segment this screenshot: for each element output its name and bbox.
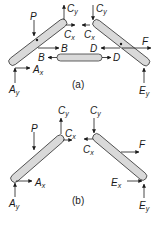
label-P-b: P [31,123,38,134]
label-F: F [142,36,149,47]
label-Cy-left-b: Cy [58,105,69,118]
label-B-member: B [61,43,68,54]
label-P: P [30,11,37,22]
pin-B-dot-left [36,39,38,41]
caption-b: (b) [72,195,84,206]
free-body-diagram: P Cy Cx Cy Cx B B D D F Ax Ay [0,0,158,226]
label-Cx-left: Cx [64,29,75,41]
label-D-member: D [90,43,97,54]
label-F-b: F [139,139,146,150]
label-B-link: B [38,52,45,63]
panel-a: P Cy Cx Cy Cx B B D D F Ax Ay [7,3,151,98]
label-Cy-right-b: Cy [90,105,101,118]
label-Cx-left-b: Cx [65,128,76,140]
label-Ay: Ay [8,84,20,97]
label-Cx-right-b: Cx [83,144,94,156]
caption-a: (a) [72,79,84,90]
pin-D-dot-right [120,43,122,45]
label-Cy-left: Cy [67,3,78,16]
label-Ex-b: Ex [111,177,122,189]
label-D-link: D [113,52,120,63]
label-Ax-b: Ax [34,177,46,189]
label-Ey: Ey [139,85,150,98]
label-Ay-b: Ay [8,198,20,211]
panel-b: P Cy Cx Cy Cx F Ax Ay Ex Ey (b) [8,105,150,213]
label-Ey-b: Ey [139,200,150,213]
label-Cy-right: Cy [96,3,107,16]
label-Ax: Ax [32,64,44,76]
label-Cx-right: Cx [84,29,95,41]
link-BD [57,54,102,61]
